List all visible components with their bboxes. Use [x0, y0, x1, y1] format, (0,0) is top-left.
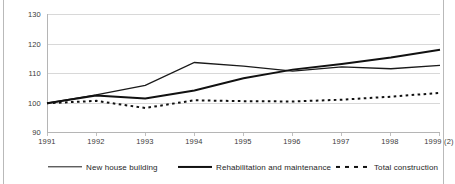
- x-tick-1994: 1994: [185, 137, 203, 146]
- y-tick-130: 130: [13, 10, 41, 19]
- x-tickmark: [194, 133, 195, 136]
- x-tickmark: [243, 133, 244, 136]
- solid-thick-line-icon: [178, 162, 212, 172]
- series-line-rehabilitation-and-maintenance: [47, 50, 440, 104]
- chart-legend: New house building Rehabilitation and ma…: [20, 160, 440, 174]
- y-axis-labels: 130 120 110 100 90: [13, 0, 43, 184]
- series-lines: [47, 14, 440, 133]
- legend-label: Total construction: [374, 163, 438, 172]
- series-line-new-house-building: [47, 62, 440, 103]
- x-tickmark: [145, 133, 146, 136]
- legend-item-total-construction: Total construction: [336, 160, 438, 174]
- x-axis-labels: 1991 1992 1993 1994 1995 1996 1997 1998 …: [47, 137, 440, 151]
- x-tickmark: [390, 133, 391, 136]
- y-tick-100: 100: [13, 99, 41, 108]
- legend-item-new-house-building: New house building: [48, 160, 158, 174]
- x-tick-1997: 1997: [332, 137, 350, 146]
- y-tick-90: 90: [13, 128, 41, 137]
- legend-item-rehabilitation-and-maintenance: Rehabilitation and maintenance: [178, 160, 331, 174]
- y-tick-120: 120: [13, 40, 41, 49]
- x-tickmark: [292, 133, 293, 136]
- legend-label: New house building: [86, 163, 158, 172]
- chart-page: 130 120 110 100 90 1991 1992 1993 1994 1…: [0, 0, 455, 184]
- dotted-line-icon: [336, 162, 370, 172]
- x-tick-1995: 1995: [234, 137, 252, 146]
- x-tickmark: [47, 133, 48, 136]
- x-tickmark: [341, 133, 342, 136]
- x-tick-1992: 1992: [87, 137, 105, 146]
- x-tick-1999: 1999 (2): [424, 137, 454, 146]
- x-tickmark: [96, 133, 97, 136]
- y-tick-110: 110: [13, 69, 41, 78]
- line-chart-figure: 130 120 110 100 90 1991 1992 1993 1994 1…: [0, 0, 455, 184]
- x-tick-1991: 1991: [38, 137, 56, 146]
- x-tick-1998: 1998: [381, 137, 399, 146]
- x-tick-1996: 1996: [283, 137, 301, 146]
- x-tickmark: [439, 133, 440, 136]
- x-tick-1993: 1993: [136, 137, 154, 146]
- solid-thin-line-icon: [48, 162, 82, 172]
- legend-label: Rehabilitation and maintenance: [216, 163, 331, 172]
